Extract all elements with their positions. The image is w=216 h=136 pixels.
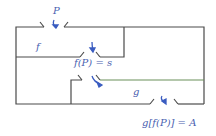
mapping-composition-diagram: P f f(P) = s g g[f(P)] = A <box>0 0 216 136</box>
label-gfp-eq-a: g[f(P)] = A <box>142 117 196 128</box>
label-p: P <box>52 5 60 16</box>
label-fp-eq-s: f(P) = s <box>73 57 112 68</box>
label-g: g <box>133 86 139 97</box>
label-f: f <box>35 41 42 52</box>
